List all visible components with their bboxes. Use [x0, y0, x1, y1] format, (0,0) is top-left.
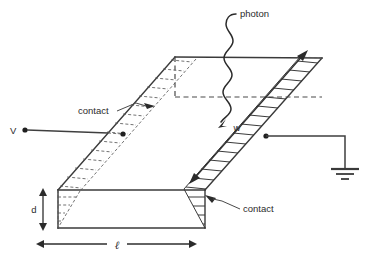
contact-left-hatch	[139, 96, 160, 98]
photoconductor-diagram: photoconductor-slab-diagram Perspective …	[0, 0, 383, 262]
voltage-contact-junction-dot	[120, 131, 125, 136]
slab-body	[58, 57, 322, 228]
depth-dimension: d	[31, 188, 47, 231]
contact-left-hatch	[171, 60, 192, 62]
photon-wave-icon	[221, 14, 236, 122]
contact-left-hatch	[155, 78, 176, 80]
contact-left-hatch	[99, 141, 120, 143]
contact-left-hatch	[91, 150, 112, 152]
depth-arrowhead-bottom	[39, 223, 47, 231]
width-label: w	[233, 122, 241, 133]
contact-left-hatch	[115, 123, 136, 125]
width-dimension-line	[192, 53, 305, 181]
photon-label: photon	[240, 8, 269, 19]
contact-left-hatch	[83, 159, 104, 161]
contact-right-label: contact	[243, 203, 274, 214]
contact-left-hatch	[147, 87, 168, 89]
length-label: ℓ	[115, 239, 120, 251]
contact-left-hatch	[60, 186, 81, 188]
depth-arrowhead-top	[39, 188, 47, 196]
contact-left-side-edge	[58, 191, 80, 228]
ground-icon	[331, 169, 359, 179]
contact-right-hatch	[265, 97, 286, 99]
width-dimension: w	[189, 50, 308, 184]
contact-right-hatch	[257, 106, 278, 108]
contact-left-label: contact	[78, 105, 109, 116]
contact-right-callout: contact	[205, 195, 274, 214]
length-arrowhead-right	[189, 240, 197, 248]
contact-right-hatch	[233, 133, 254, 135]
contact-left-callout: contact	[78, 103, 155, 116]
contact-left-leader-line	[117, 103, 136, 111]
voltage-lead-wire	[27, 130, 108, 133]
contact-right-hatch	[209, 160, 230, 162]
ground-lead[interactable]	[263, 133, 359, 179]
contact-right-leader-line	[222, 201, 240, 209]
voltage-lead[interactable]: V	[10, 125, 126, 137]
length-dimension: ℓ	[36, 236, 197, 252]
voltage-terminal-label: V	[10, 125, 17, 136]
ground-lead-wire	[266, 136, 345, 169]
depth-label: d	[31, 204, 36, 215]
length-arrowhead-left	[36, 240, 44, 248]
contact-left-hatch	[75, 168, 96, 170]
contact-right-hatch	[281, 79, 302, 81]
photon-indicator: photon	[218, 8, 269, 128]
contact-right-side-edge	[184, 189, 205, 228]
contact-right-hatch	[241, 124, 262, 126]
contact-right-hatch	[289, 70, 310, 72]
contact-left-hatch	[163, 69, 184, 71]
contact-left-hatch	[123, 114, 144, 116]
contact-right-hatch	[249, 115, 270, 117]
diagram-canvas: photoconductor-slab-diagram Perspective …	[0, 0, 383, 262]
contact-right-hatch	[273, 88, 294, 90]
contact-right-hatch	[225, 142, 246, 144]
contact-right-hatch	[201, 169, 222, 171]
voltage-terminal-dot[interactable]	[22, 127, 27, 132]
contact-left-hatch	[67, 177, 88, 179]
contact-right-hatch	[297, 61, 318, 63]
contact-right-hatch	[186, 187, 206, 189]
contact-right-hatch	[217, 151, 238, 153]
contact-left-inner-boundary	[80, 59, 196, 191]
